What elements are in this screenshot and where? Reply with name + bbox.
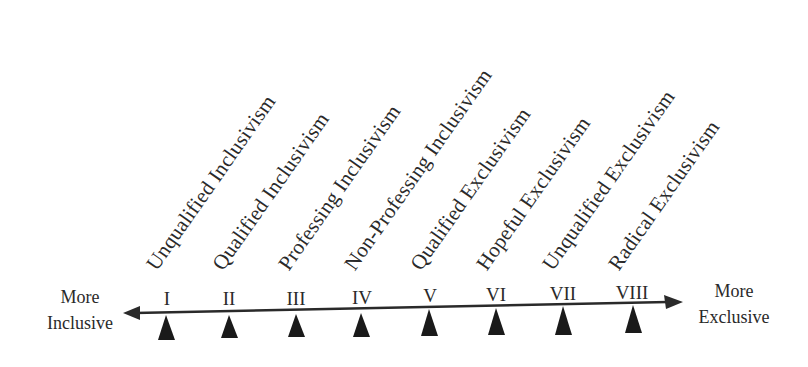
axis-line xyxy=(135,302,668,313)
numeral-6: VI xyxy=(486,284,506,306)
triangle-marker-icon xyxy=(421,309,438,336)
numeral-7: VII xyxy=(550,283,576,305)
right-end-label: More Exclusive xyxy=(684,278,784,330)
numeral-2: II xyxy=(223,288,236,310)
numeral-4: IV xyxy=(352,287,372,309)
right-end-line2: Exclusive xyxy=(684,304,784,330)
numeral-8: VIII xyxy=(616,282,649,304)
triangle-marker-icon xyxy=(221,315,238,338)
triangle-marker-icon xyxy=(488,308,505,335)
right-end-line1: More xyxy=(684,278,784,304)
left-end-line1: More xyxy=(32,284,128,310)
triangle-marker-icon xyxy=(625,305,642,333)
numeral-3: III xyxy=(287,288,306,310)
triangle-marker-icon xyxy=(555,306,572,335)
numeral-1: I xyxy=(164,288,170,310)
triangle-marker-icon xyxy=(353,313,370,337)
left-end-label: More Inclusive xyxy=(32,284,128,336)
inclusivism-exclusivism-spectrum: More Inclusive More Exclusive I II III I… xyxy=(0,0,808,367)
triangle-marker-icon xyxy=(158,315,175,340)
numeral-5: V xyxy=(423,285,437,307)
left-end-line2: Inclusive xyxy=(32,310,128,336)
triangle-marker-icon xyxy=(288,314,305,337)
arrow-right-icon xyxy=(664,295,683,309)
